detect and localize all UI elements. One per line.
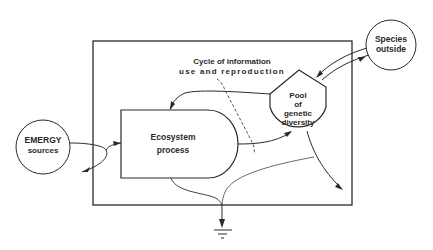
information-feedback-flow (170, 91, 270, 110)
ecosystem-to-pool-flow (238, 131, 292, 144)
arrow-icon (113, 141, 121, 146)
cycle-label-2: use and reproduction (179, 67, 285, 76)
arrow-icon (358, 57, 365, 62)
diagram-canvas: EMERGY sources Ecosystem process Pool of… (0, 0, 433, 250)
species-label-2: outside (376, 44, 406, 54)
cycle-label-1: Cycle of information (193, 57, 270, 66)
pool-label-1: Pool (289, 91, 306, 100)
arrow-icon (284, 131, 292, 137)
ecosystem-label-2: process (157, 145, 190, 155)
emergy-sources-node: EMERGY sources (16, 120, 70, 174)
arrow-icon (219, 219, 225, 228)
ecosystem-label-1: Ecosystem (151, 132, 196, 142)
pool-label-2: of (294, 100, 302, 109)
heat-sink-node (214, 230, 232, 238)
pool-label-4: diversity (282, 118, 315, 127)
arrow-icon (335, 183, 343, 190)
arrow-icon (170, 101, 175, 110)
species-outside-node: Species outside (366, 20, 416, 70)
emergy-sources-label-2: sources (28, 146, 59, 155)
species-label-1: Species (375, 34, 407, 44)
heat-sink-flows (171, 157, 314, 228)
pool-label-3: genetic (284, 109, 313, 118)
dashed-leader-line (217, 79, 254, 153)
producer-shape-icon (121, 110, 238, 178)
emergy-inflow (70, 141, 121, 172)
genetic-pool-node: Pool of genetic diversity (270, 70, 326, 127)
species-exchange-flow (316, 48, 369, 80)
pool-outflow (307, 131, 343, 190)
ecosystem-process-node: Ecosystem process (121, 110, 238, 178)
emergy-sources-label-1: EMERGY (25, 135, 62, 145)
